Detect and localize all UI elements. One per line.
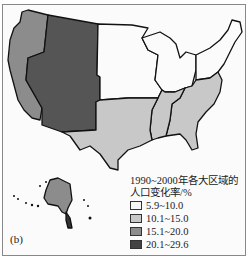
region-alaska (44, 178, 72, 214)
legend-swatch (130, 214, 142, 223)
legend-label: 5.9~10.0 (146, 200, 183, 212)
legend-title-line1: 1990~2000年各大区域的 (130, 175, 248, 187)
legend-item: 5.9~10.0 (130, 199, 248, 212)
legend-item: 15.1~20.0 (130, 225, 248, 238)
legend-swatch (130, 201, 142, 210)
legend-swatch (130, 227, 142, 236)
legend-title-line2: 人口变化率/% (130, 187, 248, 199)
legend-label: 20.1~29.6 (146, 239, 188, 251)
legend-label: 15.1~20.0 (146, 226, 188, 238)
legend-item: 20.1~29.6 (130, 238, 248, 251)
region-northeast (196, 20, 242, 80)
panel-label: (b) (10, 233, 23, 245)
legend: 1990~2000年各大区域的 人口变化率/% 5.9~10.0 10.1~15… (130, 175, 248, 251)
legend-item: 10.1~15.0 (130, 212, 248, 225)
legend-swatch (130, 240, 142, 249)
legend-label: 10.1~15.0 (146, 213, 188, 225)
alaska-panhandle (66, 212, 72, 228)
